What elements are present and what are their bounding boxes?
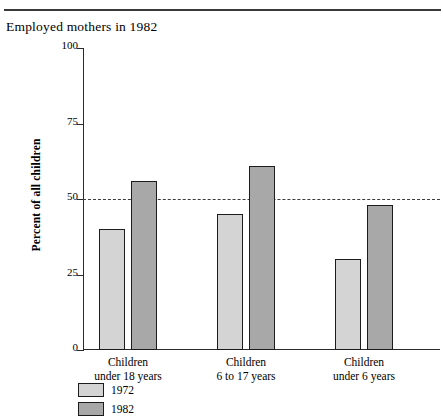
bar-1982-group-2 <box>249 166 275 350</box>
category-label-line: Children <box>294 356 434 370</box>
y-tick-mark <box>77 350 84 351</box>
bar-1972-group-3 <box>335 259 361 350</box>
y-tick-label: 75 <box>67 116 78 127</box>
legend-swatch-1972 <box>78 383 104 397</box>
y-tick-mark <box>77 48 84 49</box>
legend-swatch-1982 <box>78 402 104 416</box>
top-horizontal-rule <box>4 9 441 11</box>
y-tick-label: 100 <box>62 40 79 51</box>
legend-item-1982: 1982 <box>78 400 134 417</box>
y-tick-mark <box>77 275 84 276</box>
y-tick-label: 50 <box>67 191 78 202</box>
category-label-line: under 6 years <box>294 370 434 384</box>
chart-title: Employed mothers in 1982 <box>6 19 157 35</box>
bar-1972-group-2 <box>217 214 243 350</box>
y-tick-label: 0 <box>73 342 79 353</box>
legend: 19721982 <box>78 381 134 419</box>
y-tick-mark <box>77 124 84 125</box>
plot-area: 0255075100 Childrenunder 18 yearsChildre… <box>83 48 440 350</box>
legend-item-1972: 1972 <box>78 381 134 398</box>
legend-label-1972: 1972 <box>111 384 134 396</box>
legend-label-1982: 1982 <box>111 403 134 415</box>
bar-1982-group-1 <box>131 181 157 350</box>
y-axis-title-text: Percent of all children <box>30 130 42 260</box>
bar-1982-group-3 <box>367 205 393 350</box>
y-tick-label: 25 <box>67 267 78 278</box>
category-label-3: Childrenunder 6 years <box>294 356 434 383</box>
bar-1972-group-1 <box>99 229 125 350</box>
